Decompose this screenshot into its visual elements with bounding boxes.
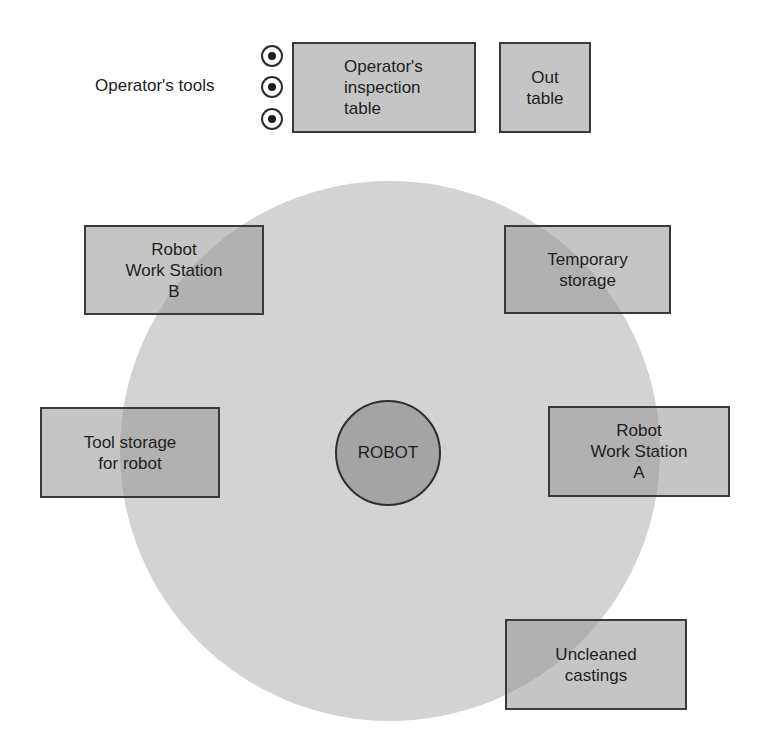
uncleaned-castings-box: Uncleaned castings (505, 619, 687, 710)
out-table-box: Out table (499, 42, 591, 133)
operator-tools-label: Operator's tools (95, 76, 214, 96)
work-station-a-box: Robot Work Station A (548, 406, 730, 497)
robot-node: ROBOT (335, 400, 441, 506)
operator-tool-icon (261, 45, 283, 67)
work-station-b-box: Robot Work Station B (84, 225, 264, 315)
temporary-storage-box: Temporary storage (504, 225, 671, 314)
operator-tool-icon (261, 76, 283, 98)
inspection-table-box: Operator's inspection table (292, 42, 476, 133)
tool-storage-box: Tool storage for robot (40, 407, 220, 498)
operator-tool-icon (261, 108, 283, 130)
work-cell-diagram: Operator's tools Operator's inspection t… (0, 0, 775, 742)
